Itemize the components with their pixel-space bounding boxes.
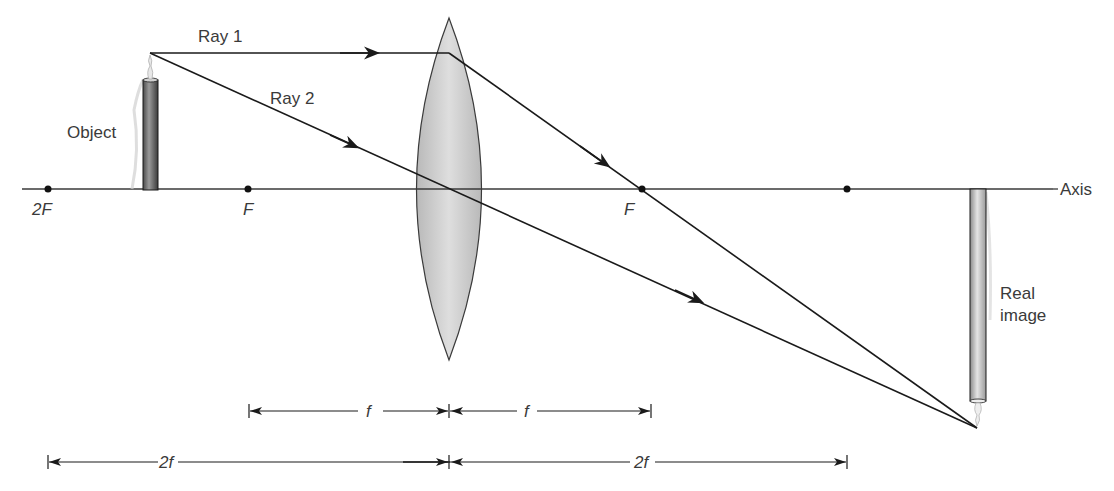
real-image-label-line1: Real: [1000, 284, 1035, 303]
f-right-label: F: [624, 200, 636, 219]
real-image-candle: [970, 189, 991, 426]
dimension-f-left-label: f: [366, 402, 373, 421]
axis-label: Axis: [1060, 180, 1092, 199]
ray-2-label: Ray 2: [270, 89, 314, 108]
dimension-2f-left: 2f: [48, 453, 448, 472]
point-2f-left: [45, 186, 52, 193]
ray-1-label: Ray 1: [198, 27, 242, 46]
point-f-left: [245, 186, 252, 193]
ray-2: [150, 53, 977, 428]
dimension-2f-left-label: 2f: [158, 453, 175, 472]
point-f-right: [639, 186, 646, 193]
flame-icon: [148, 55, 153, 79]
flame-icon: [975, 403, 982, 426]
2f-point-label: 2F: [31, 200, 53, 219]
real-image-label-line2: image: [1000, 306, 1046, 325]
dimension-f-right: f: [449, 402, 651, 421]
dimension-f-left: f: [249, 402, 448, 421]
object-candle: [132, 55, 158, 190]
lens-ray-diagram: Ray 1 Ray 2 Object 2F F F Axis Real imag…: [0, 0, 1114, 491]
dimension-f-right-label: f: [524, 402, 531, 421]
dimension-2f-right: 2f: [403, 453, 847, 472]
point-2f-right: [844, 186, 851, 193]
dimension-2f-right-label: 2f: [633, 453, 650, 472]
f-left-label: F: [243, 200, 255, 219]
object-label: Object: [67, 123, 116, 142]
